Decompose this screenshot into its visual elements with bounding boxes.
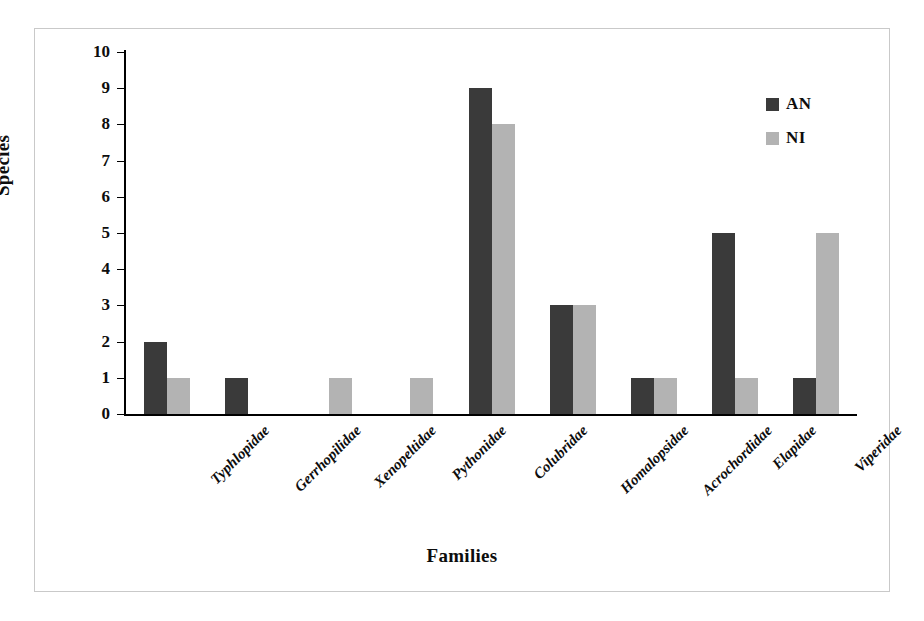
x-axis-label-typhlopidae: Typhlopidae xyxy=(207,422,273,488)
x-axis-label-gerrhopilidae: Gerrhopilidae xyxy=(291,422,364,495)
figure: Species 012345678910 TyphlopidaeGerrhopi… xyxy=(0,0,924,621)
y-axis-tick-mark xyxy=(117,233,125,234)
y-axis-tick-label: 0 xyxy=(70,405,110,422)
y-axis-tick-mark xyxy=(117,52,125,53)
y-axis-tick-label: 10 xyxy=(70,43,110,60)
legend-swatch-ni xyxy=(766,132,779,145)
bar-an-elapidae xyxy=(712,233,735,414)
bar-an-viperidae xyxy=(793,378,816,414)
y-axis-tick-mark xyxy=(117,414,125,415)
y-axis-tick-label: 6 xyxy=(70,188,110,205)
y-axis-tick-label: 7 xyxy=(70,152,110,169)
y-axis-tick-mark xyxy=(117,342,125,343)
bar-ni-viperidae xyxy=(816,233,839,414)
bar-an-gerrhopilidae xyxy=(225,378,248,414)
y-axis-tick-label: 1 xyxy=(70,369,110,386)
y-axis-tick-mark xyxy=(117,197,125,198)
x-axis-label-colubridae: Colubridae xyxy=(530,422,591,483)
x-axis-label-homalopsidae: Homalopsidae xyxy=(617,422,692,497)
y-axis-tick-mark xyxy=(117,305,125,306)
bar-ni-acrochordidae xyxy=(654,378,677,414)
bar-an-colubridae xyxy=(469,88,492,414)
x-axis-label-xenopeltidae: Xenopeltidae xyxy=(371,422,440,491)
y-axis-tick-mark xyxy=(117,161,125,162)
y-axis-tick-label: 4 xyxy=(70,260,110,277)
bar-an-typhlopidae xyxy=(144,342,167,414)
legend-swatch-an xyxy=(766,98,779,111)
bar-ni-colubridae xyxy=(492,124,515,414)
legend: ANNI xyxy=(766,96,856,164)
x-axis-label-pythonidae: Pythonidae xyxy=(449,422,511,484)
y-axis-tick-mark xyxy=(117,124,125,125)
bar-ni-pythonidae xyxy=(410,378,433,414)
bar-ni-homalopsidae xyxy=(573,305,596,414)
bar-ni-elapidae xyxy=(735,378,758,414)
y-axis-tick-label: 8 xyxy=(70,115,110,132)
bars-layer xyxy=(126,52,857,414)
x-axis-title: Families xyxy=(0,545,924,567)
y-axis-tick-mark xyxy=(117,88,125,89)
y-axis-tick-label: 9 xyxy=(70,79,110,96)
legend-item-an: AN xyxy=(766,96,856,112)
x-axis-category-labels: TyphlopidaeGerrhopilidaeXenopeltidaePyth… xyxy=(126,418,857,538)
legend-label-ni: NI xyxy=(786,128,806,148)
bar-an-acrochordidae xyxy=(631,378,654,414)
x-axis-label-elapidae: Elapidae xyxy=(769,422,820,473)
y-axis-tick-label: 2 xyxy=(70,333,110,350)
legend-label-an: AN xyxy=(786,94,812,114)
bar-ni-typhlopidae xyxy=(167,378,190,414)
legend-item-ni: NI xyxy=(766,130,856,146)
y-axis-tick-mark xyxy=(117,378,125,379)
y-axis-title: Species xyxy=(0,135,14,196)
x-axis-line xyxy=(124,414,857,416)
bar-an-homalopsidae xyxy=(550,305,573,414)
y-axis-tick-label: 3 xyxy=(70,296,110,313)
y-axis-tick-mark xyxy=(117,269,125,270)
bar-ni-xenopeltidae xyxy=(329,378,352,414)
y-axis-tick-label: 5 xyxy=(70,224,110,241)
x-axis-label-acrochordidae: Acrochordidae xyxy=(699,422,776,499)
